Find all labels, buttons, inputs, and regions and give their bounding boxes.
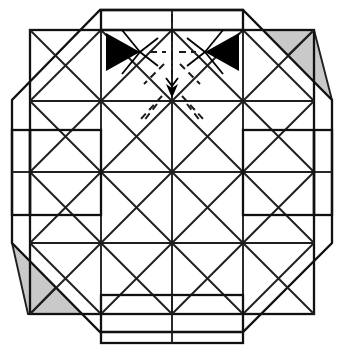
crease-pattern-diagram [0,0,342,353]
figure-root: Octagonal crease pattern diagram [0,0,342,353]
